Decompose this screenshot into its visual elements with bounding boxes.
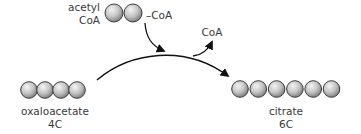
oxaloacetate-carbon-atom (37, 82, 54, 99)
citrate-carbon-atom (323, 81, 340, 98)
oxaloacetate-carbon-atom (53, 82, 70, 99)
citrate-carbon-atom (268, 81, 285, 98)
oxaloacetate-label: oxaloacetate (21, 105, 89, 117)
citrate-carbon-atom (250, 81, 267, 98)
citrate-label: citrate (269, 105, 303, 117)
citrate-carbon-spheres (232, 81, 340, 98)
acetyl-coa-molecule: acetyl CoA –CoA (68, 1, 173, 26)
citrate-carbon-atom (287, 81, 304, 98)
citrate-carbon-atom (305, 81, 322, 98)
main-reaction-arrow (97, 55, 228, 80)
coa-release-arrow (193, 42, 212, 56)
acetyl-carbon-atom (124, 4, 142, 22)
acetyl-coa-label-line2: CoA (79, 14, 101, 26)
citrate-carbon-atom (232, 81, 249, 98)
acetyl-carbon-spheres (105, 4, 142, 22)
citrate-synthesis-diagram: acetyl CoA –CoA oxaloacetate 4C citrate … (0, 0, 361, 134)
oxaloacetate-carbon-atom (21, 82, 38, 99)
coa-attachment-label: –CoA (146, 9, 173, 21)
acetyl-carbon-atom (105, 4, 123, 22)
oxaloacetate-carbon-count: 4C (48, 118, 62, 130)
oxaloacetate-carbon-atom (69, 82, 86, 99)
citrate-molecule: citrate 6C (232, 81, 340, 130)
citrate-carbon-count: 6C (279, 118, 293, 130)
acetyl-coa-input-arrow (145, 23, 164, 51)
oxaloacetate-carbon-spheres (21, 82, 86, 99)
acetyl-coa-label-line1: acetyl (68, 1, 100, 13)
released-coa-label: CoA (202, 26, 224, 38)
oxaloacetate-molecule: oxaloacetate 4C (21, 82, 89, 130)
